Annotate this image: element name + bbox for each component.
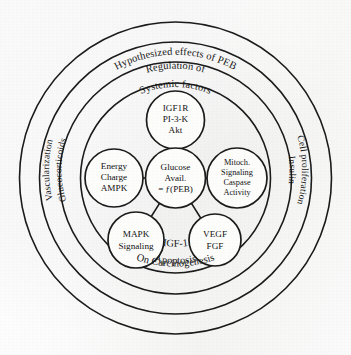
node-line: PI-3-K — [163, 114, 189, 124]
node-line: FGF — [207, 241, 224, 251]
node-energy-charge-ampk-label: Energy Charge AMPK — [101, 161, 128, 193]
ring-second-right-label: Insulin — [287, 155, 299, 184]
node-line: Signaling — [221, 168, 253, 177]
node-line: MAPK — [123, 229, 150, 239]
node-line: IGF1R — [163, 103, 189, 113]
node-line: Activity — [223, 188, 251, 197]
figure-svg: Hypothesized effects of PEB Regulation o… — [0, 0, 351, 355]
ring-third-bottom-label: IGF-1 — [162, 237, 188, 249]
ring-second-top-label: Regulation of — [145, 60, 207, 75]
concentric-circles-diagram: Hypothesized effects of PEB Regulation o… — [0, 0, 351, 355]
node-line: Energy — [101, 161, 128, 171]
node-line: Charge — [101, 172, 127, 182]
node-line: Mitoch. — [224, 158, 250, 167]
node-line: VEGF — [203, 229, 227, 239]
node-line-formula: = ƒ(PEB) — [158, 184, 193, 194]
node-line: Akt — [169, 125, 183, 135]
node-line: Avail. — [165, 173, 187, 183]
node-line: Glucose — [161, 162, 191, 172]
ring-second-bottom-label: Apoptosis — [154, 253, 198, 266]
ring-outer-left-label: Vascularization — [40, 138, 55, 202]
ring-second-left-label: Glucocorticoids — [52, 136, 68, 203]
node-line: Caspase — [223, 178, 251, 187]
node-line: AMPK — [101, 183, 128, 193]
node-mitochondrial-signaling-label: Mitoch. Signaling Caspase Activity — [221, 158, 253, 197]
node-line: Signaling — [118, 241, 154, 251]
